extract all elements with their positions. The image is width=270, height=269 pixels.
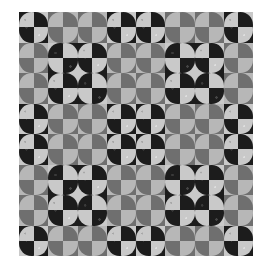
quarter-circle [121,241,136,256]
quarter-circle [209,12,224,27]
quarter-circle [165,58,180,73]
quarter-circle [195,134,210,149]
quilt-cell [63,73,78,88]
quarter-circle [78,226,93,241]
quilt-cell [19,88,34,103]
quarter-circle [195,73,210,88]
quarter-circle [238,149,253,164]
quarter-circle [19,43,34,58]
quilt-cell [34,241,49,256]
quarter-circle [209,180,224,195]
quarter-circle [48,12,63,27]
quilt-cell [63,241,78,256]
quilt-cell [92,165,107,180]
quilt-cell [238,58,253,73]
quarter-circle [63,12,78,27]
quarter-circle [63,149,78,164]
quarter-circle [224,73,239,88]
quilt-cell [195,165,210,180]
quilt-cell [92,180,107,195]
quilt-cell [34,210,49,225]
quilt-cell [238,12,253,27]
quarter-circle [151,226,166,241]
quilt-cell [136,134,151,149]
quarter-circle [209,226,224,241]
quilt-cell [136,180,151,195]
quilt-cell [121,88,136,103]
quarter-circle [107,165,122,180]
quilt-cell [48,226,63,241]
quilt-cell [121,12,136,27]
quarter-circle [195,58,210,73]
quilt-cell [209,226,224,241]
quarter-circle [151,149,166,164]
quilt-cell [151,195,166,210]
quarter-circle [121,27,136,42]
quilt-cell [151,226,166,241]
quilt-cell [238,210,253,225]
quarter-circle [151,165,166,180]
quilt-cell [151,165,166,180]
quilt-cell [48,12,63,27]
quarter-circle [92,119,107,134]
quilt-cell [48,165,63,180]
quilt-cell [151,27,166,42]
quarter-circle [165,134,180,149]
quarter-circle [34,58,49,73]
quilt-cell [48,149,63,164]
quilt-cell [151,73,166,88]
quarter-circle [180,195,195,210]
quarter-circle [34,241,49,256]
quarter-circle [63,27,78,42]
quarter-circle [180,210,195,225]
quilt-cell [195,12,210,27]
quilt-cell [151,43,166,58]
quarter-circle [238,226,253,241]
quilt-cell [48,210,63,225]
quilt-cell [92,104,107,119]
quarter-circle [224,195,239,210]
quilt-cell [34,165,49,180]
quarter-circle [92,210,107,225]
quilt-cell [19,104,34,119]
quarter-circle [121,73,136,88]
quarter-circle [165,88,180,103]
quilt-cell [136,149,151,164]
quilt-cell [48,119,63,134]
quilt-cell [224,58,239,73]
quilt-cell [151,180,166,195]
quarter-circle [48,73,63,88]
quarter-circle [151,210,166,225]
quarter-circle [224,12,239,27]
quilt-cell [165,104,180,119]
quarter-circle [195,180,210,195]
quilt-cell [209,88,224,103]
quilt-cell [34,226,49,241]
quilt-cell [238,27,253,42]
quilt-cell [63,165,78,180]
quarter-circle [136,165,151,180]
quarter-circle [195,241,210,256]
quilt-cell [165,149,180,164]
quarter-circle [92,195,107,210]
quilt-cell [63,58,78,73]
quilt-cell [209,73,224,88]
quilt-cell [209,58,224,73]
quilt-cell [165,165,180,180]
quilt-cell [151,88,166,103]
quarter-circle [63,226,78,241]
quarter-circle [19,58,34,73]
quilt-cell [78,210,93,225]
quarter-circle [151,43,166,58]
quilt-cell [78,134,93,149]
quarter-circle [63,119,78,134]
quarter-circle [19,119,34,134]
quilt-cell [121,134,136,149]
quarter-circle [19,195,34,210]
quarter-circle [238,195,253,210]
quilt-cell [209,12,224,27]
quarter-circle [151,195,166,210]
quarter-circle [19,12,34,27]
quilt-cell [136,27,151,42]
quarter-circle [136,104,151,119]
